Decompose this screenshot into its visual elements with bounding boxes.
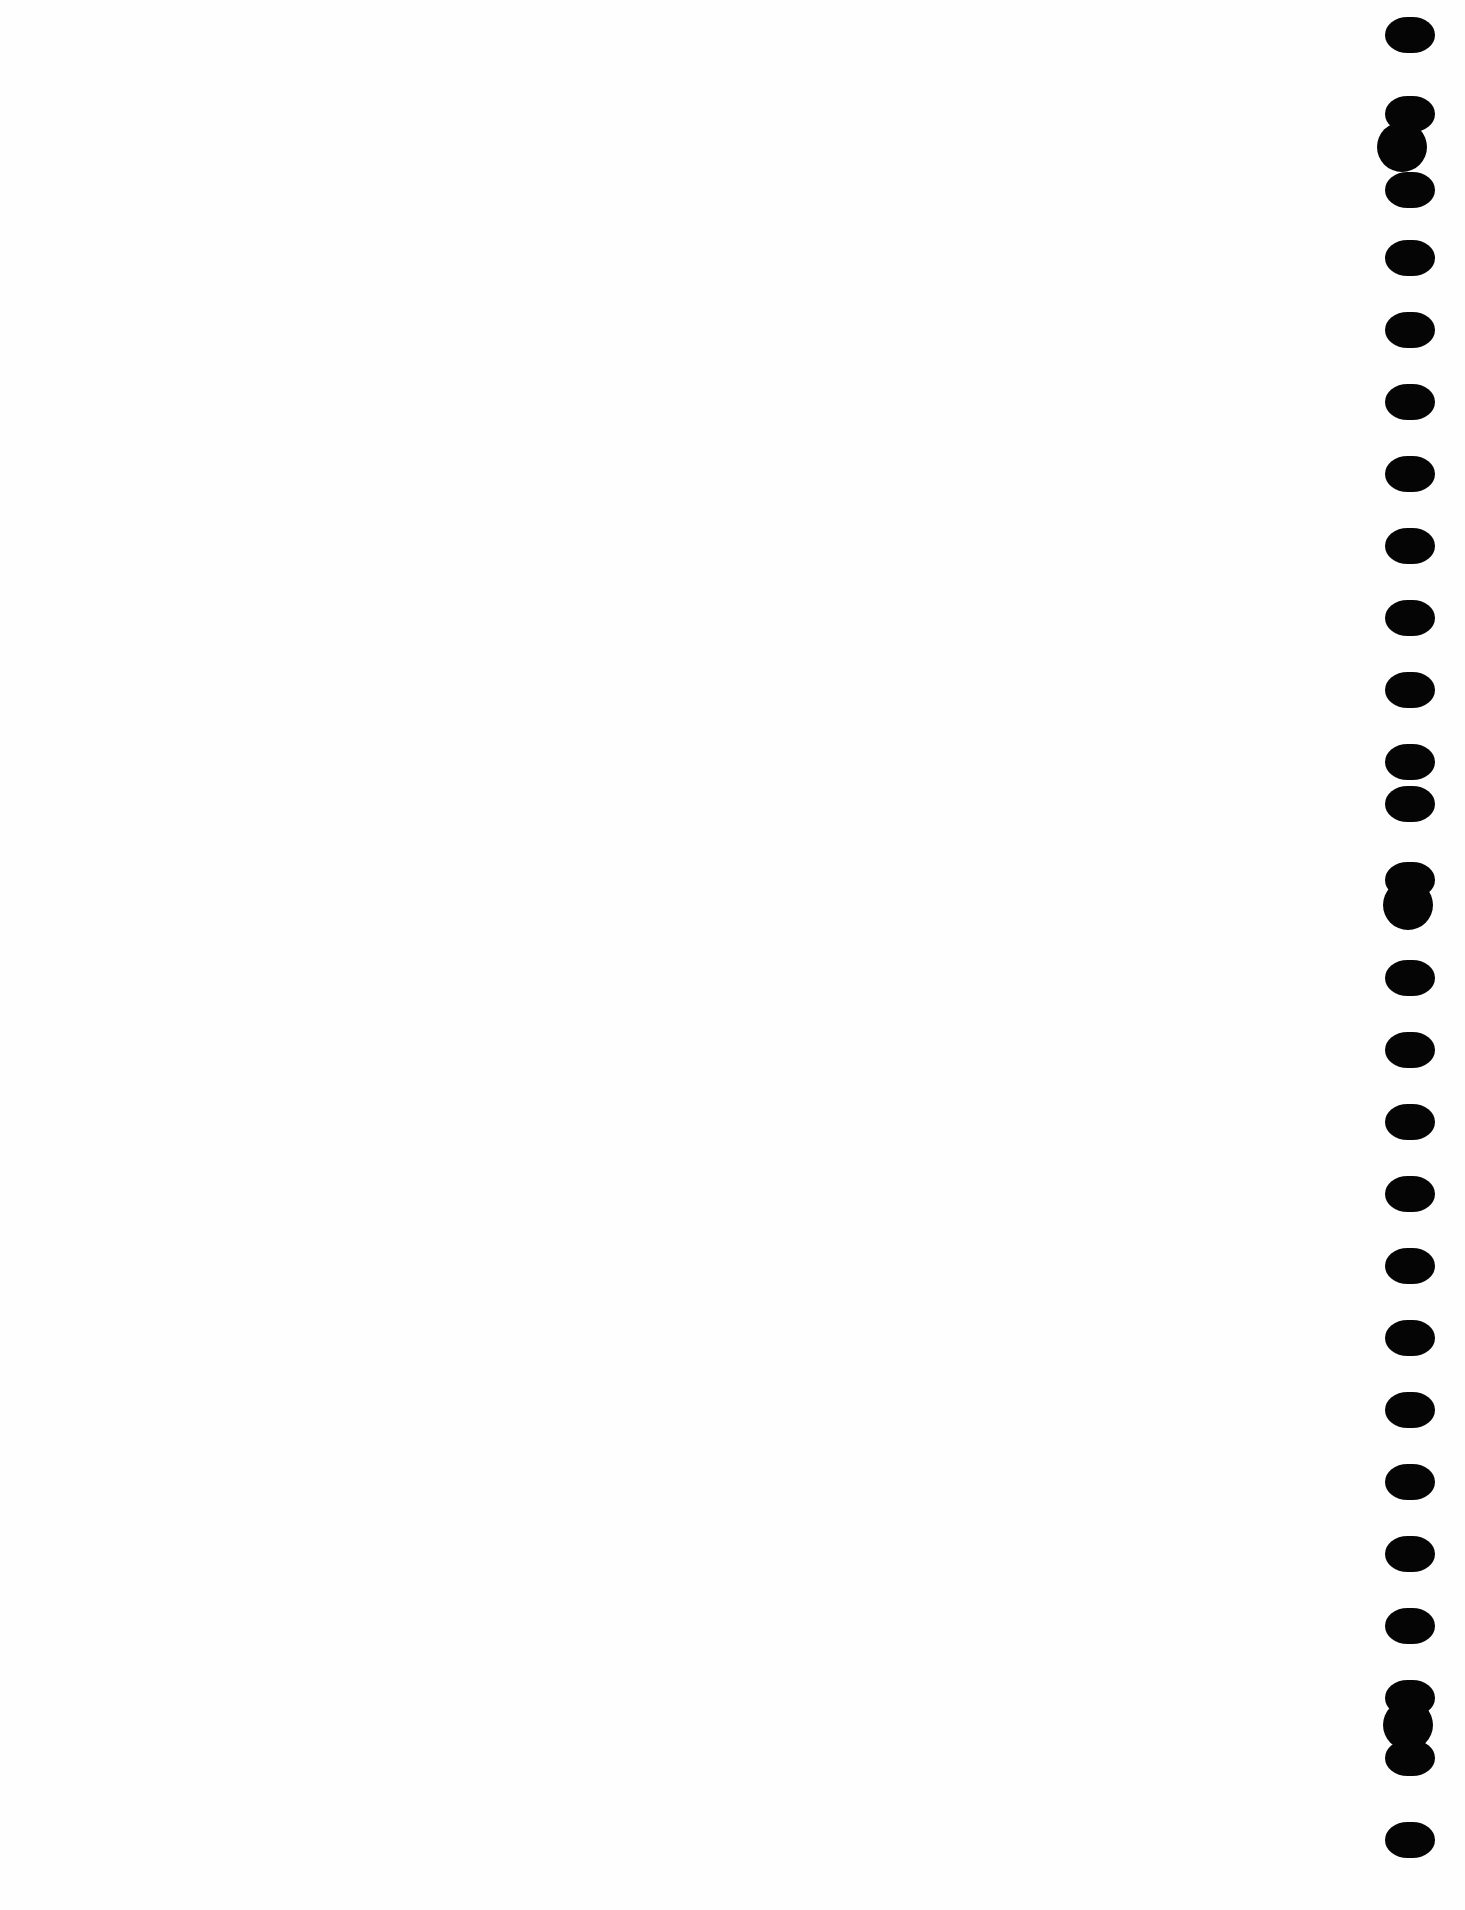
punch-hole [1383,880,1433,930]
punch-hole [1385,1104,1435,1140]
punch-hole [1385,744,1435,780]
punch-hole [1385,1248,1435,1284]
punch-hole [1385,1176,1435,1212]
punch-hole [1385,672,1435,708]
punch-hole [1385,1740,1435,1776]
punch-hole [1385,600,1435,636]
punch-hole [1385,1392,1435,1428]
punch-hole [1385,1822,1435,1858]
punch-hole [1385,456,1435,492]
punch-hole [1385,384,1435,420]
punch-hole [1385,1320,1435,1356]
punch-hole [1385,528,1435,564]
punch-hole [1385,240,1435,276]
punch-hole [1385,786,1435,822]
punch-hole [1385,172,1435,208]
punch-hole [1385,1608,1435,1644]
punch-hole [1385,1536,1435,1572]
punch-hole [1385,312,1435,348]
punch-hole [1385,1032,1435,1068]
punch-hole [1377,122,1427,172]
punch-hole [1385,17,1435,53]
punch-hole [1385,960,1435,996]
punch-hole [1385,1464,1435,1500]
scanned-page [0,0,1465,1910]
